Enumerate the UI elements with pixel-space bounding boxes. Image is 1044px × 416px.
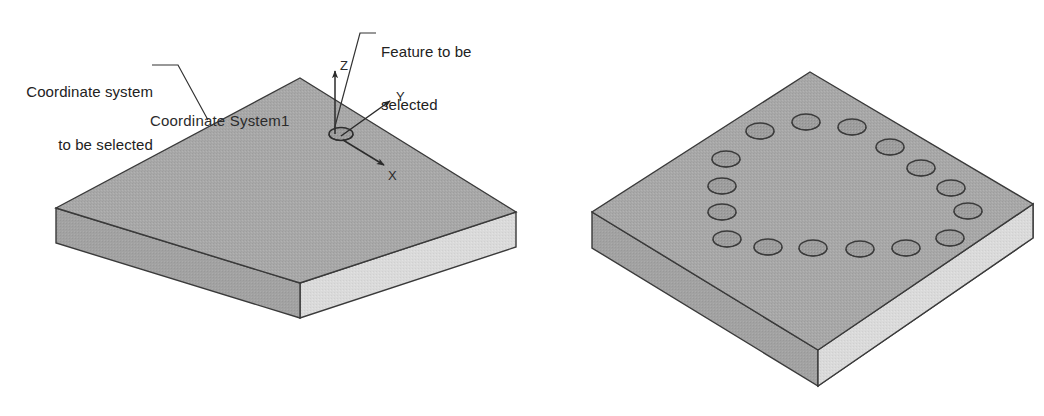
coordinate-system-callout-line1: Coordinate system (8, 83, 153, 101)
hole (708, 204, 736, 220)
diagram-canvas: Z Y X (0, 0, 1044, 416)
hole (876, 139, 904, 155)
feature-callout-line1: Feature to be (381, 43, 531, 61)
hole (936, 230, 964, 246)
hole (846, 241, 874, 257)
hole (954, 203, 982, 219)
hole (937, 180, 965, 196)
hole (746, 123, 774, 139)
hole (713, 231, 741, 247)
hole (712, 151, 740, 167)
z-axis-label: Z (340, 58, 348, 73)
hole (792, 114, 820, 130)
feature-callout-line2: selected (381, 96, 531, 114)
coordinate-system-callout-line2: to be selected (8, 136, 153, 154)
right-plate-group (592, 72, 1033, 386)
x-axis-label: X (388, 168, 397, 183)
hole (799, 240, 827, 256)
hole (838, 119, 866, 135)
hole (892, 240, 920, 256)
coordinate-system-name-label: Coordinate System1 (150, 112, 290, 129)
hole (708, 178, 736, 194)
hole (754, 239, 782, 255)
hole (907, 160, 935, 176)
coordinate-system-callout: Coordinate system to be selected (8, 48, 153, 190)
feature-callout: Feature to be selected (381, 8, 531, 150)
